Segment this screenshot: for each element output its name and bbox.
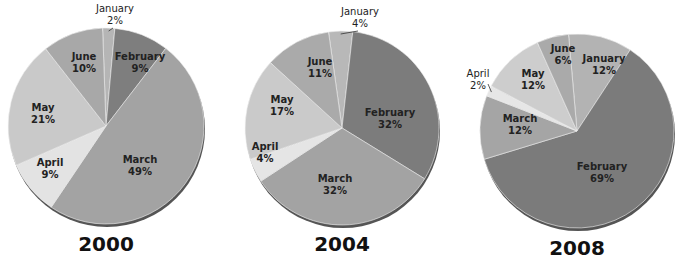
slice-label-june: June11%	[307, 56, 333, 79]
slice-label-may: May17%	[270, 94, 294, 117]
slice-label-april: April2%	[467, 68, 490, 91]
chart-title-2008: 2008	[527, 236, 627, 260]
slice-label-may: May12%	[521, 68, 545, 91]
pie-chart-2008: January12%February69%March12%April2%May1…	[467, 34, 675, 231]
slice-label-june: June10%	[71, 51, 97, 74]
chart-title-2000: 2000	[56, 232, 156, 256]
pie-chart-2004: January4%February32%March32%April4%May17…	[245, 6, 440, 228]
chart-title-2004: 2004	[292, 232, 392, 256]
pie-charts-canvas: January2%February9%March49%April9%May21%…	[0, 0, 682, 262]
slice-label-january: January2%	[95, 3, 134, 26]
slice-label-january: January4%	[340, 6, 379, 29]
slice-label-may: May21%	[31, 102, 55, 125]
pie-chart-2000: January2%February9%March49%April9%May21%…	[8, 3, 205, 227]
